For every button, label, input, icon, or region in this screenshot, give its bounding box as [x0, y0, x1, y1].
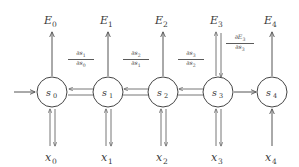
output-label-E3: E 3 — [209, 14, 223, 29]
svg-text:4: 4 — [272, 157, 277, 166]
output-label-E4: E 4 — [263, 14, 277, 29]
state-node-s3[interactable] — [203, 77, 233, 107]
input-arrow-x0 — [50, 109, 55, 146]
input-label-x3: x 3 — [211, 151, 223, 166]
output-label-E0: E 0 — [43, 14, 57, 29]
svg-text:4: 4 — [272, 20, 277, 29]
input-label-x4: x 4 — [265, 151, 277, 166]
state-node-s2[interactable] — [148, 77, 178, 107]
output-arrow-E3 — [216, 32, 221, 77]
svg-text:s: s — [266, 87, 271, 98]
svg-text:0: 0 — [53, 92, 57, 100]
svg-text:0: 0 — [52, 157, 57, 166]
gradient-label-dE3-ds3: ∂E3 ∂s3 — [226, 34, 254, 53]
output-label-E1: E 1 — [99, 14, 113, 29]
svg-text:3: 3 — [218, 20, 223, 29]
svg-text:E: E — [43, 14, 52, 27]
svg-text:2: 2 — [163, 157, 168, 166]
svg-text:s: s — [46, 87, 51, 98]
svg-text:x: x — [101, 151, 108, 164]
svg-text:s: s — [212, 87, 217, 98]
state-node-s4[interactable] — [257, 77, 287, 107]
svg-text:E: E — [154, 14, 163, 27]
svg-text:0: 0 — [52, 20, 57, 29]
svg-text:1: 1 — [109, 92, 113, 100]
gradient-label-ds2-ds1: ∂s2 ∂s1 — [123, 50, 149, 69]
input-label-x1: x 1 — [101, 151, 113, 166]
svg-text:2: 2 — [163, 20, 168, 29]
rnn-bptt-diagram: s 0 s 1 s 2 s 3 s 4 E 0 E 1 E 2 — [0, 0, 299, 167]
svg-text:4: 4 — [273, 92, 277, 100]
svg-text:x: x — [45, 151, 52, 164]
state-node-s0[interactable] — [37, 77, 67, 107]
svg-text:E: E — [99, 14, 108, 27]
svg-text:E: E — [209, 14, 218, 27]
gradient-label-ds1-ds0: ∂s1 ∂s0 — [68, 50, 94, 69]
input-arrow-x3 — [216, 109, 221, 146]
svg-text:3: 3 — [218, 157, 223, 166]
svg-text:1: 1 — [108, 20, 113, 29]
svg-text:x: x — [211, 151, 218, 164]
state-node-s1[interactable] — [93, 77, 123, 107]
gradient-label-ds3-ds2: ∂s3 ∂s2 — [178, 50, 204, 69]
svg-text:x: x — [156, 151, 163, 164]
input-label-x0: x 0 — [45, 151, 57, 166]
svg-text:E: E — [263, 14, 272, 27]
output-label-E2: E 2 — [154, 14, 168, 29]
input-arrow-x2 — [161, 109, 166, 146]
input-label-x2: x 2 — [156, 151, 168, 166]
input-arrow-x1 — [106, 109, 111, 146]
diagram-canvas: s 0 s 1 s 2 s 3 s 4 E 0 E 1 E 2 — [0, 0, 299, 167]
svg-text:x: x — [265, 151, 272, 164]
svg-text:s: s — [102, 87, 107, 98]
svg-text:3: 3 — [219, 92, 223, 100]
svg-text:s: s — [157, 87, 162, 98]
svg-text:2: 2 — [164, 92, 168, 100]
svg-text:1: 1 — [108, 157, 113, 166]
